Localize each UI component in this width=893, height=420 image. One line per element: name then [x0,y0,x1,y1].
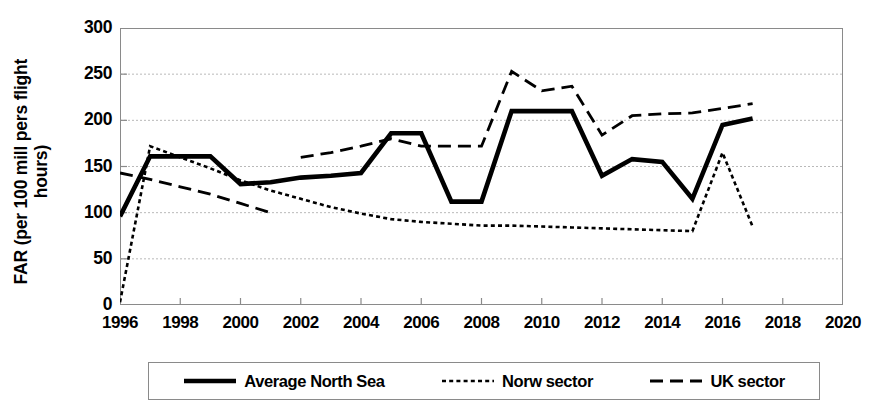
y-tick-label-200: 200 [56,109,112,130]
y-axis-title: FAR (per 100 mill pers flight hours) [12,22,51,322]
legend-item-average-north-sea[interactable]: Average North Sea [183,372,384,391]
chart-legend: Average North SeaNorw sectorUK sector [148,362,820,400]
y-tick-label-50: 50 [56,248,112,269]
x-tick-label-2020: 2020 [813,313,873,333]
series-line-uk-sector-seg2 [301,71,753,157]
y-tick-label-0: 0 [56,294,112,315]
y-tick-label-300: 300 [56,17,112,38]
x-tick-label-2016: 2016 [693,313,753,333]
series-line-average-north-sea [120,111,753,216]
x-tick-label-2012: 2012 [572,313,632,333]
x-tick-label-2006: 2006 [391,313,451,333]
y-tick-label-150: 150 [56,156,112,177]
series-line-uk-sector-seg1 [120,173,271,213]
dashed-line-swatch [649,374,703,388]
x-tick-label-2014: 2014 [632,313,692,333]
y-tick-label-250: 250 [56,63,112,84]
legend-item-uk-sector[interactable]: UK sector [649,372,784,391]
x-tick-label-2000: 2000 [211,313,271,333]
legend-item-norw-sector[interactable]: Norw sector [441,372,593,391]
chart-container: FAR (per 100 mill pers flight hours) 050… [0,0,893,420]
legend-label: Average North Sea [244,372,384,391]
x-tick-label-1996: 1996 [90,313,150,333]
x-tick-label-2018: 2018 [753,313,813,333]
x-tick-label-2002: 2002 [271,313,331,333]
x-tick-label-1998: 1998 [150,313,210,333]
x-tick-label-2004: 2004 [331,313,391,333]
x-tick-label-2010: 2010 [512,313,572,333]
dotted-line-swatch [441,374,495,388]
legend-label: UK sector [710,372,784,391]
legend-label: Norw sector [502,372,593,391]
solid-thick-line-swatch [183,374,237,388]
x-tick-label-2008: 2008 [452,313,512,333]
y-tick-label-100: 100 [56,202,112,223]
plot-svg [120,28,843,305]
